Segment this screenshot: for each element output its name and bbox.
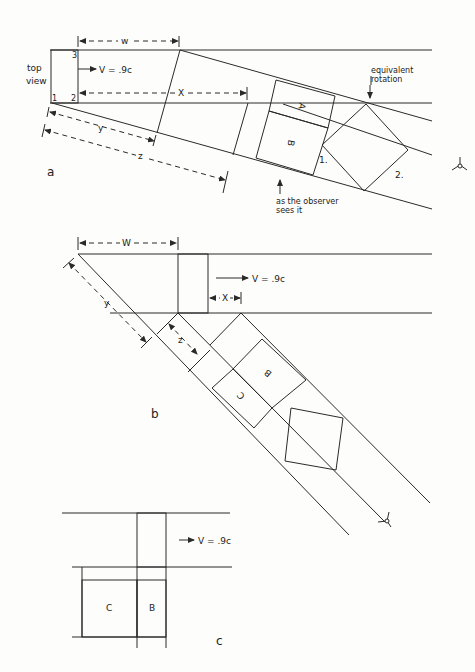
top-view-label: top bbox=[27, 63, 42, 73]
cross-line bbox=[210, 313, 241, 345]
cross-line bbox=[188, 350, 210, 372]
panel-a-label: a bbox=[47, 165, 54, 179]
face-b-label: B bbox=[149, 603, 155, 613]
velocity-label: V = .9c bbox=[252, 274, 285, 284]
rotated-cube bbox=[285, 408, 343, 470]
label-x: X bbox=[222, 293, 228, 303]
velocity-label: V = .9c bbox=[99, 65, 132, 75]
label-z: z bbox=[178, 335, 183, 345]
position-1-label: 1. bbox=[319, 155, 328, 165]
eye-observer-icon bbox=[378, 512, 391, 527]
rotated-edge-2 bbox=[233, 103, 248, 155]
cross-line bbox=[157, 313, 178, 334]
eye-observer-icon bbox=[452, 157, 467, 170]
svg-text:sees it: sees it bbox=[276, 206, 302, 215]
face-c-label: C bbox=[235, 390, 247, 401]
panel-c-label: c bbox=[216, 634, 223, 648]
observer-sees-label: as the observer bbox=[276, 197, 339, 206]
label-x: X bbox=[178, 88, 184, 98]
corner-2: 2 bbox=[71, 94, 76, 103]
label-y: y bbox=[104, 298, 110, 308]
equivalent-rotation-label: equivalent bbox=[371, 66, 413, 75]
svg-text:rotation: rotation bbox=[371, 75, 402, 84]
cube bbox=[178, 254, 208, 313]
label-y: y bbox=[98, 123, 104, 133]
face-b-label: B bbox=[262, 367, 273, 379]
corner-1: 1 bbox=[52, 94, 57, 103]
cube bbox=[137, 513, 166, 567]
dim-z bbox=[45, 130, 225, 180]
svg-text:view: view bbox=[26, 76, 47, 86]
panel-b-label: b bbox=[151, 407, 159, 421]
band-line-3 bbox=[241, 313, 430, 503]
band-line-2 bbox=[178, 313, 385, 522]
label-w: W bbox=[122, 238, 131, 248]
label-z: z bbox=[138, 151, 143, 161]
label-w: w bbox=[121, 36, 128, 46]
rotated-band-bottom bbox=[52, 103, 432, 209]
corner-3: 3 bbox=[72, 51, 77, 60]
position-2-label: 2. bbox=[395, 170, 404, 180]
face-c-label: C bbox=[106, 603, 112, 613]
rotated-band-top bbox=[180, 50, 432, 121]
band-line-1 bbox=[78, 254, 349, 535]
face-b-label: B bbox=[286, 139, 297, 147]
velocity-label: V = .9c bbox=[198, 536, 231, 546]
panel-c: V = .9c C B c bbox=[62, 513, 232, 648]
relativity-rotation-diagram: w V = .9c X top view 3 1 2 y z A B 1. 2. bbox=[0, 0, 475, 672]
panel-b: W V = .9c X y z B C b bbox=[63, 237, 432, 537]
panel-a: w V = .9c X top view 3 1 2 y z A B 1. 2. bbox=[26, 35, 467, 215]
